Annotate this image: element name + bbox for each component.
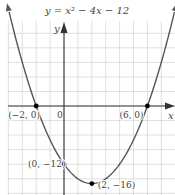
data-point	[89, 181, 94, 186]
y-axis-arrow-icon	[61, 22, 68, 33]
chart-title: y = x² − 4x − 12	[44, 5, 129, 16]
data-point	[34, 104, 39, 109]
origin-label: 0	[57, 110, 63, 120]
y-axis-label: y	[53, 23, 60, 34]
data-point-label: (6, 0)	[119, 110, 143, 120]
data-point-label: (2, −16)	[98, 180, 135, 190]
data-point-label: (−2, 0)	[8, 110, 40, 120]
curve-arrow-left-icon	[6, 3, 12, 11]
x-axis-label: x	[168, 110, 174, 121]
key-points: (−2, 0)(6, 0)(0, −12)(2, −16)	[8, 104, 150, 190]
x-axis-arrow-icon	[165, 103, 175, 110]
data-point	[145, 104, 150, 109]
data-point-label: (0, −12)	[28, 159, 65, 169]
parabola-chart: (−2, 0)(6, 0)(0, −12)(2, −16) y = x² − 4…	[0, 0, 175, 195]
curve-arrow-right-icon	[172, 3, 175, 11]
